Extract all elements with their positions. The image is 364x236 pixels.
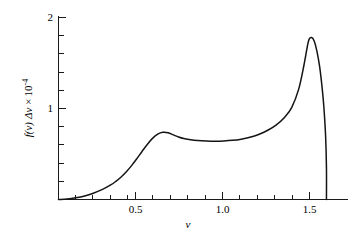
y-axis-title-exponent: -4 <box>21 79 30 86</box>
x-tick-label-1-0: 1.0 <box>216 203 230 215</box>
y-axis-title-times: × <box>22 98 34 104</box>
y-axis-title-delta: Δν <box>22 108 34 120</box>
y-axis-title-function: f(ν) <box>22 122 35 138</box>
x-axis-minor-ticks <box>75 195 327 200</box>
y-tick-label-1: 1 <box>48 102 54 114</box>
frequency-spectrum-chart: 2 1 0.5 1.0 1.5 ν f(ν)Δν×10-4 <box>0 0 364 236</box>
x-axis-major-ticks <box>136 192 310 199</box>
y-tick-label-2: 2 <box>48 11 54 23</box>
figure-container: 2 1 0.5 1.0 1.5 ν f(ν)Δν×10-4 <box>0 0 364 236</box>
y-axis-title: f(ν)Δν×10-4 <box>21 79 35 138</box>
spectrum-curve <box>59 37 327 199</box>
svg-text:f(ν)Δν×10-4: f(ν)Δν×10-4 <box>21 79 35 138</box>
x-axis-title: ν <box>186 218 191 230</box>
y-axis-major-ticks <box>59 18 66 109</box>
x-tick-label-0-5: 0.5 <box>129 203 143 215</box>
x-tick-label-1-5: 1.5 <box>303 203 317 215</box>
y-axis-title-mantissa: 10 <box>22 85 34 97</box>
